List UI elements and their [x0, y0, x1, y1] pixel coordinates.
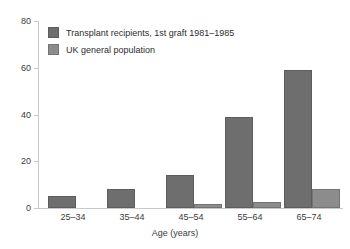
series-1-swatch-icon	[48, 44, 59, 55]
legend-item-uk-general-population: UK general population	[48, 42, 234, 57]
bar-55-64-uk-general-population	[253, 202, 281, 208]
bar-group-65-74	[284, 21, 340, 208]
y-axis-label-20-wrap: 20	[0, 157, 31, 166]
y-axis-label-60-wrap: 60	[0, 64, 31, 73]
y-axis-label-40-wrap: 40	[0, 111, 31, 120]
y-axis-label-80: 80	[1, 17, 31, 26]
y-axis-label-80-wrap: 80	[0, 17, 31, 26]
x-axis-label-65-74: 65–74	[274, 212, 344, 223]
bar-35-44-transplant-recipients	[107, 189, 135, 208]
bar-65-74-transplant-recipients	[284, 70, 312, 208]
legend-label-transplant-recipients: Transplant recipients, 1st graft 1981–19…	[66, 28, 234, 38]
y-axis-label-40: 40	[1, 111, 31, 120]
bar-25-34-transplant-recipients	[48, 196, 76, 208]
y-axis-label-20: 20	[1, 157, 31, 166]
y-axis-label-0: 0	[1, 204, 31, 213]
legend-item-transplant-recipients: Transplant recipients, 1st graft 1981–19…	[48, 25, 234, 40]
series-0-swatch-icon	[48, 27, 59, 38]
bar-45-54-transplant-recipients	[166, 175, 194, 208]
legend-label-uk-general-population: UK general population	[66, 45, 155, 55]
chart-legend: Transplant recipients, 1st graft 1981–19…	[48, 25, 234, 59]
y-axis-tick-0	[34, 208, 39, 209]
bar-chart: 80 60 40 20 0	[0, 0, 350, 249]
bar-45-54-uk-general-population	[194, 204, 222, 208]
x-axis-line	[38, 208, 343, 209]
bar-65-74-uk-general-population	[312, 189, 340, 208]
bar-55-64-transplant-recipients	[225, 117, 253, 208]
y-axis-label-0-wrap: 0	[0, 204, 31, 213]
x-axis-title: Age (years)	[0, 228, 350, 238]
y-axis-label-60: 60	[1, 64, 31, 73]
